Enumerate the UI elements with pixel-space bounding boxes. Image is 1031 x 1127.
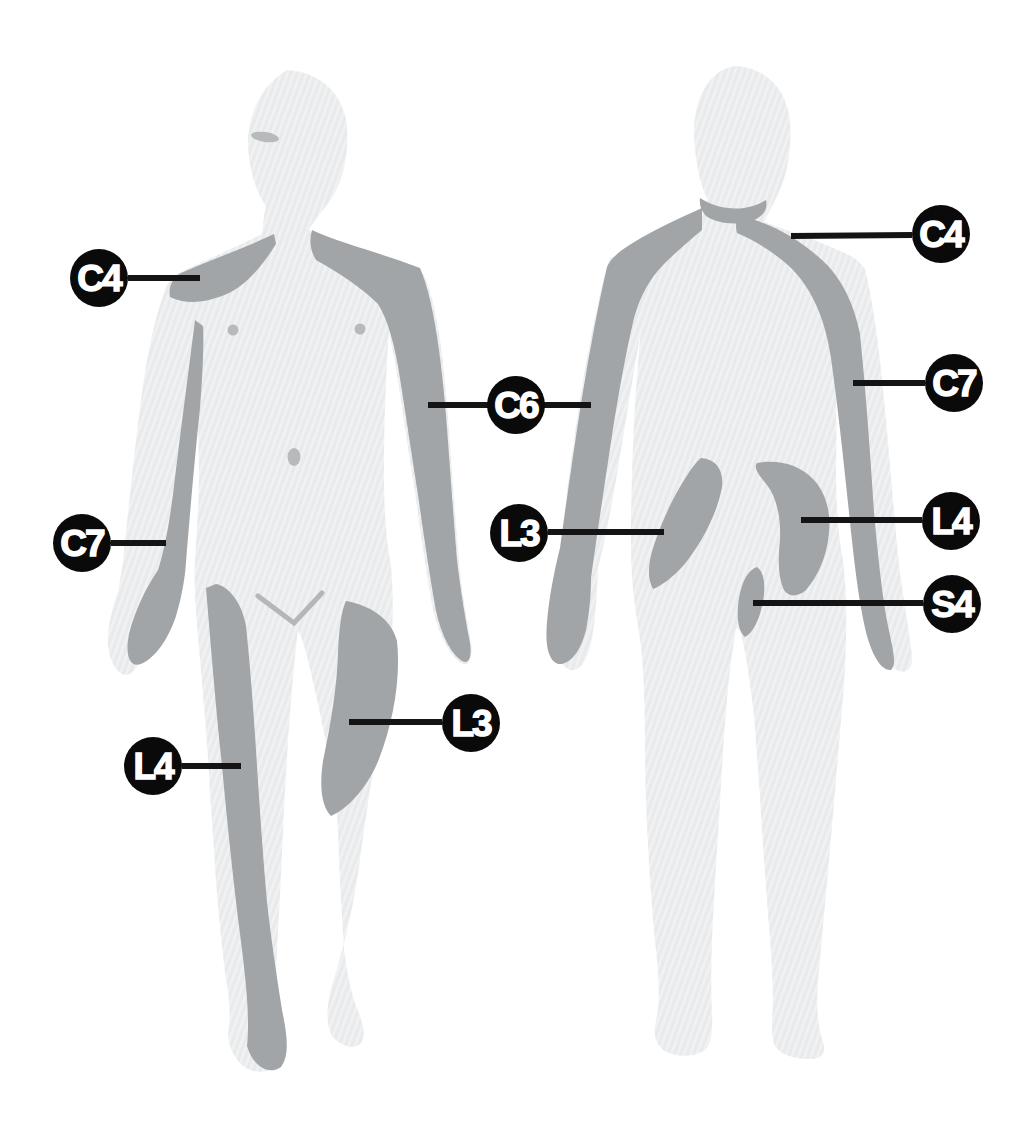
back-c4-leader-line (791, 235, 912, 236)
front-right-nipple (355, 324, 366, 335)
back-l4-label: L4 (931, 501, 973, 542)
c6-label: C6 (494, 385, 539, 426)
front-left-nipple (228, 325, 239, 336)
dermatome-diagram-page: C4 C7 L4 L3 C6 C4 C7 L4 S4 (0, 0, 1031, 1127)
front-l4-label: L4 (133, 746, 175, 787)
label-shared-c6: C6 (428, 376, 591, 434)
front-c7-label: C7 (60, 523, 104, 564)
back-c4-label: C4 (919, 214, 965, 255)
front-l3-label: L3 (451, 703, 492, 744)
back-s4-label: S4 (931, 584, 975, 625)
dermatome-diagram: C4 C7 L4 L3 C6 C4 C7 L4 S4 (0, 0, 1031, 1127)
back-c7-label: C7 (932, 363, 976, 404)
front-navel (288, 448, 301, 466)
front-c4-label: C4 (77, 258, 123, 299)
back-l3-label: L3 (499, 513, 540, 554)
